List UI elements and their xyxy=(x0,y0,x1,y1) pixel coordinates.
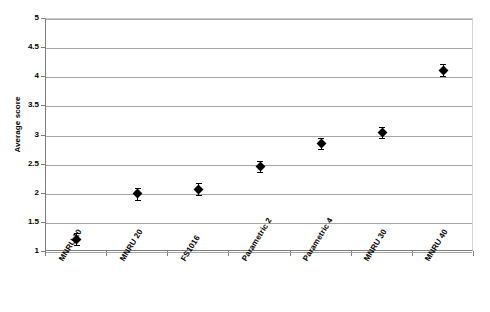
data-point-marker xyxy=(255,161,265,171)
average-score-chart: Average score 54.543.532.521.51 MNRU 10M… xyxy=(0,0,490,312)
error-bar-cap-lower xyxy=(196,195,202,196)
y-axis-tick-label: 2.5 xyxy=(0,160,39,168)
x-axis-tick-mark xyxy=(473,251,474,256)
plot-area xyxy=(45,18,473,251)
y-axis-tick-label: 1 xyxy=(0,247,39,255)
y-axis-tick-label: 3.5 xyxy=(0,101,39,109)
y-axis-tick-label: 3 xyxy=(0,131,39,139)
gridline xyxy=(46,252,472,253)
gridline xyxy=(46,19,472,20)
error-bar-cap-lower xyxy=(379,138,385,139)
y-axis-tick-label: 2 xyxy=(0,189,39,197)
data-point-marker xyxy=(133,189,143,199)
gridline xyxy=(46,106,472,107)
y-axis-tick-label: 4.5 xyxy=(0,43,39,51)
gridline xyxy=(46,194,472,195)
error-bar-cap-lower xyxy=(318,149,324,150)
data-point-marker xyxy=(438,65,448,75)
y-axis-tick-label: 1.5 xyxy=(0,218,39,226)
gridline xyxy=(46,48,472,49)
gridline xyxy=(46,77,472,78)
error-bar-cap-lower xyxy=(257,172,263,173)
gridline xyxy=(46,223,472,224)
y-axis-tick-label: 4 xyxy=(0,72,39,80)
data-point-marker xyxy=(194,184,204,194)
error-bar-cap-lower xyxy=(440,76,446,77)
data-point-marker xyxy=(316,139,326,149)
y-axis-title: Average score xyxy=(13,77,22,173)
y-axis-tick-label: 5 xyxy=(0,14,39,22)
error-bar-cap-lower xyxy=(135,200,141,201)
gridline xyxy=(46,136,472,137)
